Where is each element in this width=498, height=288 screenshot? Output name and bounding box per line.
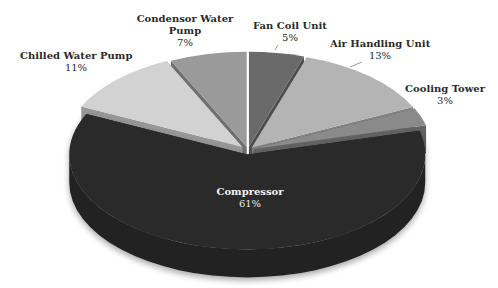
leader-lines xyxy=(0,0,498,288)
